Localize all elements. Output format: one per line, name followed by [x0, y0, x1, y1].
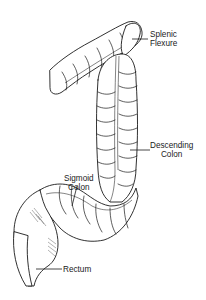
descending-colon-label-line2: Colon — [150, 150, 193, 159]
descending-colon-label-line1: Descending — [150, 141, 193, 150]
rectum-label-line1: Rectum — [63, 265, 91, 274]
splenic-flexure-label: Splenic Flexure — [150, 30, 177, 48]
descending-colon-label: Descending Colon — [150, 141, 193, 159]
descending-colon — [97, 54, 138, 202]
splenic-flexure-label-line2: Flexure — [150, 39, 177, 48]
sigmoid-colon-label: Sigmoid Colon — [64, 174, 94, 192]
sigmoid-colon-label-line2: Colon — [64, 183, 94, 192]
splenic-flexure-label-line1: Splenic — [150, 30, 177, 39]
rectum-label: Rectum — [63, 265, 91, 274]
colon-diagram: Splenic Flexure Descending Colon Sigmoid… — [0, 0, 206, 300]
sigmoid-colon-label-line1: Sigmoid — [64, 174, 94, 183]
